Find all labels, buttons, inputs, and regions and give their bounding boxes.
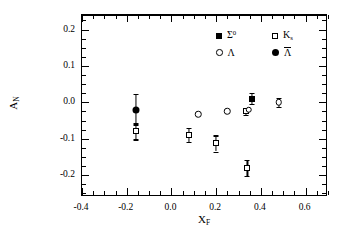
error-bar-cap bbox=[249, 93, 254, 94]
data-point-lambda bbox=[245, 106, 252, 113]
x-major-tick-top bbox=[261, 15, 262, 22]
y-major-tick-right bbox=[319, 139, 326, 140]
x-minor-tick-top bbox=[149, 15, 150, 19]
error-bar-cap bbox=[133, 125, 138, 126]
y-minor-tick bbox=[82, 121, 86, 122]
y-minor-tick bbox=[82, 39, 86, 40]
x-major-tick bbox=[127, 188, 128, 195]
y-minor-tick-right bbox=[322, 157, 326, 158]
x-major-tick-top bbox=[171, 15, 172, 22]
x-minor-tick-top bbox=[104, 15, 105, 19]
y-minor-tick-right bbox=[322, 84, 326, 85]
data-point-lambda bbox=[276, 99, 283, 106]
y-minor-tick-right bbox=[322, 48, 326, 49]
error-bar-cap bbox=[133, 94, 138, 95]
x-major-tick bbox=[261, 188, 262, 195]
y-minor-tick bbox=[82, 75, 86, 76]
y-axis-title-sub: N bbox=[12, 96, 21, 101]
legend-marker-open-square-icon bbox=[272, 33, 278, 39]
x-tick-label: 0.4 bbox=[254, 202, 266, 212]
legend-item-lambda: Λ bbox=[216, 46, 235, 59]
x-tick-label: -0.2 bbox=[118, 202, 133, 212]
x-minor-tick-top bbox=[272, 15, 273, 19]
legend-label: Λ bbox=[284, 47, 291, 59]
data-point-lambda bbox=[195, 111, 202, 118]
x-minor-tick-top bbox=[239, 15, 240, 19]
y-minor-tick bbox=[82, 57, 86, 58]
y-major-tick bbox=[82, 66, 89, 67]
x-minor-tick-top bbox=[138, 15, 139, 19]
x-minor-tick bbox=[194, 191, 195, 195]
x-minor-tick bbox=[250, 191, 251, 195]
y-tick-label: -0.2 bbox=[35, 169, 75, 179]
y-minor-tick-right bbox=[322, 75, 326, 76]
x-major-tick bbox=[306, 188, 307, 195]
error-bar-cap bbox=[214, 152, 219, 153]
x-minor-tick bbox=[317, 191, 318, 195]
x-minor-tick-top bbox=[93, 15, 94, 19]
legend-row: ΛΛ bbox=[216, 46, 321, 63]
x-minor-tick bbox=[116, 191, 117, 195]
y-minor-tick-right bbox=[322, 39, 326, 40]
x-minor-tick bbox=[272, 191, 273, 195]
y-tick-label: 0.1 bbox=[35, 60, 75, 70]
x-minor-tick bbox=[138, 191, 139, 195]
x-minor-tick-top bbox=[116, 15, 117, 19]
y-tick-label: 0.2 bbox=[35, 24, 75, 34]
y-minor-tick-right bbox=[322, 57, 326, 58]
legend-label-text: Λ bbox=[228, 47, 235, 58]
x-major-tick-top bbox=[216, 15, 217, 22]
x-minor-tick bbox=[283, 191, 284, 195]
y-minor-tick-right bbox=[322, 121, 326, 122]
x-minor-tick-top bbox=[183, 15, 184, 19]
y-major-tick-right bbox=[319, 66, 326, 67]
y-minor-tick bbox=[82, 148, 86, 149]
legend-item-sigma0: Σ0 bbox=[216, 29, 236, 42]
x-minor-tick-top bbox=[227, 15, 228, 19]
x-minor-tick-top bbox=[283, 15, 284, 19]
y-axis-title-text: A bbox=[7, 102, 19, 110]
y-major-tick-right bbox=[319, 102, 326, 103]
y-tick-label: 0.0 bbox=[35, 96, 75, 106]
y-minor-tick bbox=[82, 157, 86, 158]
x-major-tick-top bbox=[127, 15, 128, 22]
y-minor-tick bbox=[82, 111, 86, 112]
error-bar-cap bbox=[187, 128, 192, 129]
x-minor-tick bbox=[294, 191, 295, 195]
legend-marker-filled-square-icon bbox=[216, 33, 222, 39]
y-minor-tick-right bbox=[322, 130, 326, 131]
x-minor-tick-top bbox=[328, 15, 329, 19]
zero-reference-line bbox=[82, 15, 326, 16]
y-minor-tick-right bbox=[322, 20, 326, 21]
x-axis-title: XF bbox=[198, 213, 210, 227]
data-point-k-s bbox=[133, 128, 139, 134]
x-minor-tick bbox=[104, 191, 105, 195]
x-minor-tick bbox=[227, 191, 228, 195]
x-minor-tick bbox=[328, 191, 329, 195]
figure-canvas: -0.4-0.20.00.20.40.6 0.20.10.0-0.1-0.2 X… bbox=[0, 0, 342, 237]
data-point-lambda bbox=[224, 108, 231, 115]
y-minor-tick bbox=[82, 166, 86, 167]
y-major-tick bbox=[82, 175, 89, 176]
error-bar-cap bbox=[249, 104, 254, 105]
y-minor-tick bbox=[82, 130, 86, 131]
legend-item-antilambda: Λ bbox=[272, 46, 291, 59]
x-minor-tick bbox=[160, 191, 161, 195]
y-minor-tick-right bbox=[322, 193, 326, 194]
y-minor-tick-right bbox=[322, 148, 326, 149]
y-minor-tick bbox=[82, 48, 86, 49]
x-minor-tick-top bbox=[194, 15, 195, 19]
x-minor-tick-top bbox=[294, 15, 295, 19]
x-minor-tick bbox=[183, 191, 184, 195]
x-minor-tick-top bbox=[205, 15, 206, 19]
legend: Σ0KsΛΛ bbox=[216, 29, 321, 63]
legend-label: Λ bbox=[228, 48, 235, 58]
legend-marker-open-circle-icon bbox=[216, 49, 223, 56]
x-tick-label: -0.4 bbox=[73, 202, 88, 212]
y-minor-tick bbox=[82, 84, 86, 85]
x-axis-title-sub: F bbox=[206, 218, 210, 227]
y-minor-tick bbox=[82, 193, 86, 194]
data-point-k-s bbox=[244, 165, 250, 171]
y-minor-tick-right bbox=[322, 184, 326, 185]
legend-label-subscript: s bbox=[290, 33, 293, 40]
